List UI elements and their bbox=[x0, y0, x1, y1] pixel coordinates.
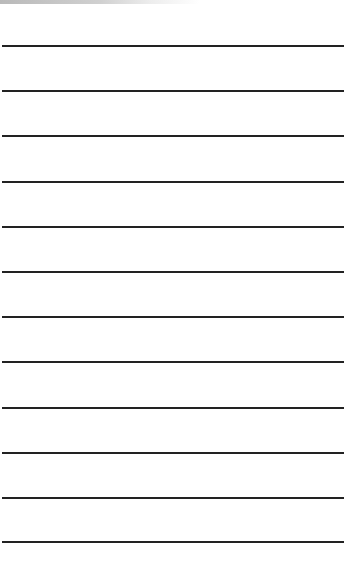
ruled-line bbox=[2, 45, 344, 47]
paper-top-edge bbox=[0, 0, 200, 4]
ruled-line bbox=[2, 361, 344, 363]
ruled-line bbox=[2, 497, 344, 499]
ruled-line bbox=[2, 226, 344, 228]
ruled-line bbox=[2, 541, 344, 543]
ruled-line bbox=[2, 452, 344, 454]
ruled-line bbox=[2, 316, 344, 318]
ruled-line bbox=[2, 181, 344, 183]
ruled-line bbox=[2, 135, 344, 137]
ruled-line bbox=[2, 90, 344, 92]
ruled-line bbox=[2, 271, 344, 273]
ruled-line bbox=[2, 407, 344, 409]
